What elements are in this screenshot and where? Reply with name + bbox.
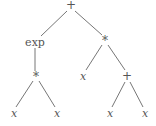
node-right-times: * <box>102 35 108 47</box>
edge-rplus-x2 <box>130 82 143 107</box>
node-var-x-leaf-3: x <box>107 108 113 119</box>
expression-tree-diagram: + exp * * x + x x x x <box>0 0 156 126</box>
node-root-plus: + <box>66 0 76 11</box>
node-left-times: * <box>33 71 39 83</box>
edge-ltimes-x2 <box>39 81 55 107</box>
edge-root-times <box>75 11 102 35</box>
node-var-x-leaf-4: x <box>142 108 148 119</box>
edge-ltimes-x1 <box>16 81 33 107</box>
tree-edges <box>0 0 156 126</box>
node-var-x-leaf-1: x <box>11 108 17 119</box>
node-var-x-leaf-2: x <box>54 108 60 119</box>
node-right-plus: + <box>122 70 132 82</box>
edge-root-exp <box>41 11 67 36</box>
edge-times-plus <box>108 45 125 70</box>
edge-rplus-x1 <box>112 82 125 107</box>
node-var-x: x <box>80 71 86 82</box>
edge-times-x <box>86 45 102 70</box>
node-exp: exp <box>25 37 45 48</box>
